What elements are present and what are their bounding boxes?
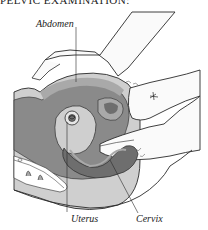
- label-cervix: Cervix: [136, 213, 163, 224]
- pelvic-exam-illustration: [0, 0, 208, 230]
- label-uterus: Uterus: [71, 213, 98, 224]
- label-abdomen: Abdomen: [36, 18, 74, 29]
